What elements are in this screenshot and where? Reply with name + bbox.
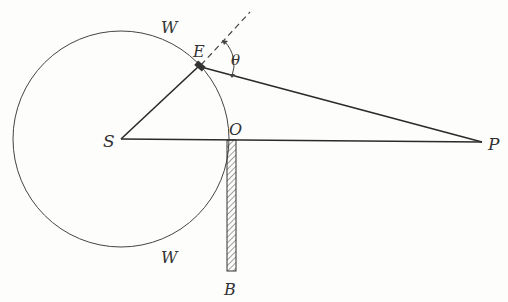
- line-EP: [201, 67, 482, 142]
- line-SE: [121, 66, 199, 139]
- label-W-top: W: [161, 18, 179, 37]
- label-B: B: [223, 280, 236, 299]
- line-SP: [121, 139, 482, 142]
- label-theta: θ: [231, 51, 240, 69]
- label-P: P: [487, 134, 500, 154]
- label-W-bottom: W: [161, 248, 179, 267]
- dashed-extension: [201, 12, 250, 65]
- label-S: S: [103, 131, 115, 151]
- hatched-bar: [227, 140, 236, 271]
- diagram-canvas: W E θ S O P W B: [0, 0, 508, 302]
- label-O: O: [229, 120, 242, 139]
- orbit-diagram: W E θ S O P W B: [0, 0, 508, 302]
- label-E: E: [192, 42, 205, 61]
